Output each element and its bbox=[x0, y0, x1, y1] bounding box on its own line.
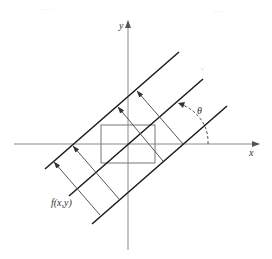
theta-label: θ bbox=[197, 105, 202, 116]
faint-header-left: ······ bbox=[40, 6, 54, 14]
theta-arrowhead-icon bbox=[178, 102, 185, 108]
y-axis-label: y bbox=[118, 20, 124, 31]
x-axis-label: x bbox=[248, 147, 254, 158]
function-label: f(x,y) bbox=[51, 197, 72, 209]
parallel-line-middle bbox=[69, 79, 203, 196]
axes: y x bbox=[14, 20, 259, 250]
theta-angle: θ bbox=[178, 102, 208, 144]
parallel-lines bbox=[45, 52, 227, 224]
ray-3 bbox=[118, 107, 163, 161]
projection-diagram: ······ ······ y x θ s f(x,y) bbox=[0, 0, 272, 259]
parallel-line-top bbox=[45, 52, 179, 169]
ray-4 bbox=[137, 91, 183, 144]
parallel-line-bottom bbox=[92, 106, 227, 224]
theta-arc bbox=[178, 103, 208, 144]
ray-2 bbox=[73, 146, 119, 199]
faint-s-label: s bbox=[201, 65, 204, 73]
faint-header-right: ······ bbox=[212, 8, 226, 16]
